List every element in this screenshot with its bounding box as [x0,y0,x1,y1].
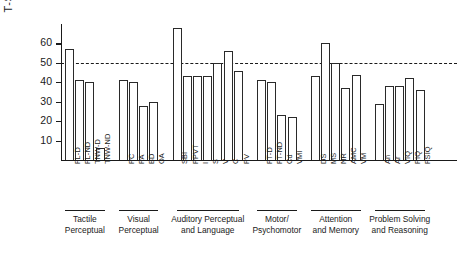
group-divider [119,210,159,211]
y-tick: 10 [56,141,61,142]
x-axis-category-label: PIQ [413,151,422,164]
x-axis-category-label: VMI [295,151,304,164]
x-axis-category-label: An [383,155,392,164]
x-axis-category-label: VM [359,153,368,164]
x-axis-category-label: TNW-D [93,139,102,164]
y-tick-label: 40 [40,75,52,87]
bar [65,49,74,160]
bar [129,82,138,160]
y-tick-mark [56,102,61,103]
bar [173,28,182,160]
bar [203,76,212,160]
x-axis-category-label: PA [137,154,146,164]
y-tick-label: 20 [40,114,52,126]
neuropsych-t-score-bar-chart: T-SCORE 102030405060 FL-DFL-NDTNW-DTNW-N… [0,0,472,254]
x-axis-category-label: MS [329,153,338,164]
y-tick-mark [56,121,61,122]
x-axis-category-label: PC [127,154,136,164]
x-axis-category-label: NR [339,153,348,164]
group-caption-line: Problem Solving [340,214,460,225]
x-axis-category-label: FT-D [265,147,274,164]
bar [321,43,330,160]
y-tick-label: 60 [40,36,52,48]
x-axis-category-label: V [221,159,230,164]
y-tick-mark [56,43,61,44]
bar [311,76,320,160]
bar [405,78,414,160]
x-axis-category-label: DS [319,154,328,164]
group-caption: Problem Solvingand Reasoning [340,214,460,235]
x-axis-category-label: FL-D [73,147,82,164]
group-divider [65,210,105,211]
group-caption-line: and Reasoning [340,225,460,236]
x-axis-category-label: FL-ND [83,142,92,164]
x-axis-category-label: FSIQ [423,146,432,164]
bar [224,51,233,160]
x-axis-category-label: C [231,159,240,164]
y-tick: 60 [56,43,61,44]
x-axis-category-label: Ar [393,156,402,164]
y-tick-label: 30 [40,95,52,107]
x-axis-category-label: Cd [285,154,294,164]
group-divider [311,210,361,211]
bar [395,86,404,160]
x-axis-category-label: I [201,162,210,164]
y-axis-line [61,24,62,160]
bar [385,86,394,160]
bar [119,80,128,160]
x-axis-category-label: VIQ [403,151,412,164]
y-tick-label: 10 [40,134,52,146]
bar [331,63,340,160]
x-axis-category-label: BD [147,154,156,164]
y-tick-label: 50 [40,56,52,68]
bar [139,106,148,160]
x-axis-category-label: PPVT [191,144,200,164]
group-divider [257,210,297,211]
x-axis-category-label: TNW-ND [103,134,112,164]
x-axis-category-label: SBI [180,152,189,164]
y-tick: 30 [56,102,61,103]
x-axis-category-label: S [211,159,220,164]
group-divider [375,210,425,211]
y-tick-mark [56,82,61,83]
bar [234,71,243,160]
y-tick: 40 [56,82,61,83]
y-tick-mark [56,141,61,142]
x-axis-category-label: PV [242,154,251,164]
bar [375,104,384,160]
y-tick: 20 [56,121,61,122]
x-axis-category-label: AMC [349,147,358,164]
bar [149,102,158,160]
plot-area: 102030405060 [61,24,457,160]
bar [213,63,222,160]
x-axis-category-label: OA [157,153,166,164]
x-axis-category-label: FT-ND [275,142,284,164]
group-divider [177,210,239,211]
y-axis-title: T-SCORE [2,0,20,46]
reference-line-50 [61,63,457,64]
